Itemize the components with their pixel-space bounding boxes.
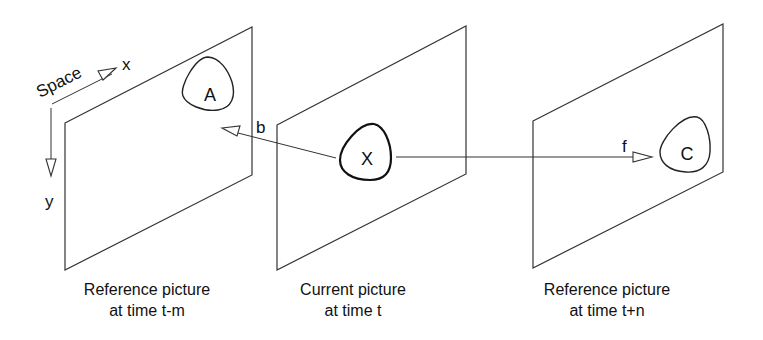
reference-picture-future: C bbox=[533, 24, 723, 268]
diagram-canvas: x Space y A C b bbox=[0, 0, 763, 340]
object-x-label: X bbox=[361, 149, 373, 169]
caption-ref-past-line1: Reference picture bbox=[84, 281, 210, 298]
caption-ref-future-line2: at time t+n bbox=[569, 302, 644, 319]
y-axis-arrowhead-icon bbox=[46, 159, 56, 176]
forward-arrowhead-icon bbox=[633, 152, 652, 162]
space-label: Space bbox=[33, 63, 85, 102]
x-axis-label: x bbox=[122, 55, 131, 74]
caption-ref-past-line2: at time t-m bbox=[109, 302, 185, 319]
reference-picture-past: A bbox=[65, 27, 252, 270]
caption-current-line2: at time t bbox=[325, 302, 382, 319]
space-axes: x Space y bbox=[33, 55, 131, 211]
x-axis-arrowhead-icon bbox=[98, 68, 116, 80]
object-a-label: A bbox=[204, 85, 216, 105]
object-c-label: C bbox=[681, 144, 694, 164]
caption-current-line1: Current picture bbox=[300, 281, 406, 298]
backward-arrowhead-icon bbox=[222, 126, 240, 136]
forward-motion-vector: f bbox=[396, 137, 652, 162]
backward-vector-line bbox=[238, 133, 336, 158]
current-block: X bbox=[340, 124, 391, 180]
forward-vector-label: f bbox=[622, 137, 627, 156]
y-axis-label: y bbox=[45, 192, 54, 211]
picture-frame bbox=[65, 27, 252, 270]
captions: Reference picture at time t-m Current pi… bbox=[84, 281, 670, 319]
motion-prediction-diagram: x Space y A C b bbox=[0, 0, 763, 340]
caption-ref-future-line1: Reference picture bbox=[544, 281, 670, 298]
backward-vector-label: b bbox=[256, 118, 265, 137]
